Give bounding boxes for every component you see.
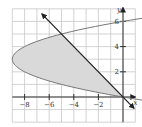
y-axis-label: y [116, 6, 122, 14]
shaded-region [12, 34, 123, 97]
x-tick-label: −4 [69, 101, 80, 109]
chart: −8−6−4−2246 y x [0, 0, 142, 127]
x-tick-label: −8 [19, 101, 29, 109]
x-tick-label: −2 [93, 101, 103, 109]
y-tick-label: 2 [115, 68, 119, 76]
x-tick-label: −6 [44, 101, 55, 109]
x-axis-label: x [133, 99, 137, 107]
y-tick-label: 6 [115, 18, 120, 26]
y-tick-label: 4 [115, 43, 120, 51]
